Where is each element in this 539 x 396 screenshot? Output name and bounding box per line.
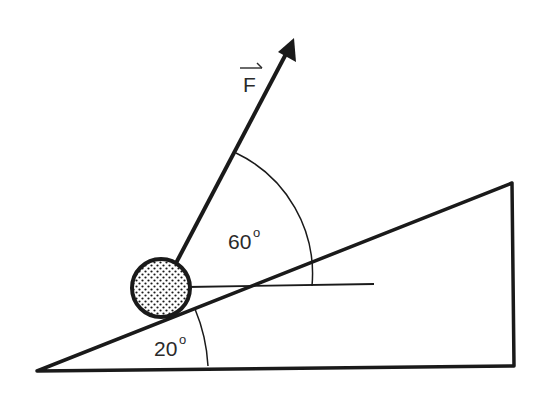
- force-angle-label: 60 o: [228, 225, 260, 253]
- vector-arrow-head-icon: [257, 63, 262, 68]
- incline-angle-value: 20: [154, 337, 177, 360]
- force-label: F: [240, 63, 262, 96]
- incline-angle-degree: o: [179, 332, 186, 347]
- force-angle-value: 60: [228, 230, 251, 253]
- force-angle-degree: o: [253, 225, 260, 240]
- horizontal-reference-line: [187, 284, 374, 287]
- incline-force-diagram: F 60 o 20 o: [0, 0, 539, 396]
- ball: [132, 259, 190, 317]
- force-label-text: F: [243, 73, 256, 96]
- incline-angle-label: 20 o: [154, 332, 186, 360]
- incline-angle-arc: [195, 309, 208, 366]
- inclined-plane: [37, 183, 514, 371]
- force-arrow-head: [278, 38, 296, 62]
